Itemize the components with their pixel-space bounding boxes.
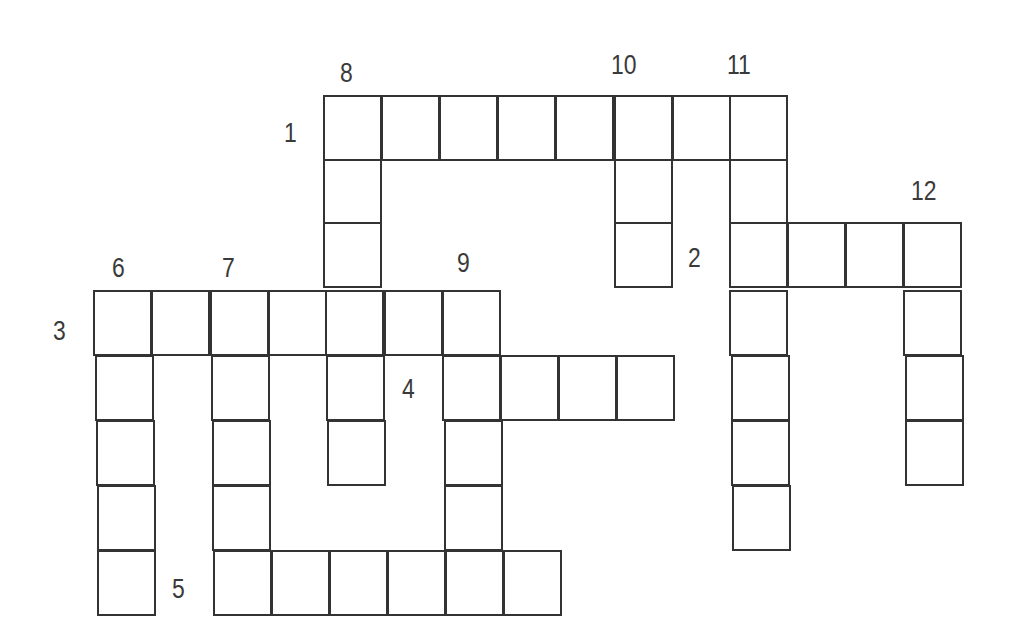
clue-number-label: 8 (340, 60, 353, 87)
crossword-cell[interactable] (210, 290, 269, 356)
crossword-cell[interactable] (729, 159, 788, 225)
clue-number-label: 5 (172, 576, 185, 603)
clue-number-label: 3 (53, 318, 66, 345)
crossword-grid: 123456789101112 (0, 0, 1012, 643)
crossword-cell[interactable] (212, 420, 271, 486)
clue-number-label: 10 (611, 52, 637, 79)
crossword-cell[interactable] (672, 95, 731, 161)
crossword-cell[interactable] (271, 550, 330, 616)
clue-number-label: 1 (284, 120, 297, 147)
crossword-cell[interactable] (616, 355, 675, 421)
crossword-cell[interactable] (326, 355, 385, 421)
crossword-cell[interactable] (903, 290, 962, 356)
crossword-cell[interactable] (384, 290, 443, 356)
crossword-cell[interactable] (439, 95, 498, 161)
crossword-cell[interactable] (903, 222, 962, 288)
crossword-cell[interactable] (442, 290, 501, 356)
crossword-cell[interactable] (97, 550, 156, 616)
crossword-cell[interactable] (503, 550, 562, 616)
crossword-cell[interactable] (327, 420, 386, 486)
crossword-cell[interactable] (845, 222, 904, 288)
crossword-cell[interactable] (729, 222, 788, 288)
crossword-cell[interactable] (211, 355, 270, 421)
crossword-cell[interactable] (729, 95, 788, 161)
crossword-cell[interactable] (444, 485, 503, 551)
clue-number-label: 6 (112, 255, 125, 282)
crossword-cell[interactable] (213, 550, 272, 616)
crossword-cell[interactable] (323, 222, 382, 288)
clue-number-label: 12 (911, 178, 937, 205)
crossword-cell[interactable] (500, 355, 559, 421)
crossword-cell[interactable] (444, 420, 503, 486)
clue-number-label: 7 (222, 255, 235, 282)
crossword-cell[interactable] (497, 95, 556, 161)
crossword-cell[interactable] (731, 355, 790, 421)
crossword-cell[interactable] (212, 485, 271, 551)
crossword-cell[interactable] (387, 550, 446, 616)
crossword-cell[interactable] (555, 95, 614, 161)
crossword-cell[interactable] (732, 485, 791, 551)
crossword-cell[interactable] (614, 159, 673, 225)
clue-number-label: 2 (688, 245, 701, 272)
crossword-cell[interactable] (614, 95, 673, 161)
crossword-cell[interactable] (95, 355, 154, 421)
crossword-cell[interactable] (96, 420, 155, 486)
crossword-cell[interactable] (445, 550, 504, 616)
crossword-cell[interactable] (442, 355, 501, 421)
crossword-cell[interactable] (614, 222, 673, 288)
crossword-cell[interactable] (323, 95, 382, 161)
crossword-cell[interactable] (381, 95, 440, 161)
clue-number-label: 9 (457, 250, 470, 277)
crossword-cell[interactable] (787, 222, 846, 288)
crossword-cell[interactable] (97, 485, 156, 551)
crossword-cell[interactable] (905, 355, 964, 421)
crossword-cell[interactable] (729, 290, 788, 356)
crossword-cell[interactable] (558, 355, 617, 421)
crossword-cell[interactable] (325, 290, 384, 356)
clue-number-label: 4 (402, 376, 415, 403)
crossword-cell[interactable] (268, 290, 327, 356)
crossword-cell[interactable] (731, 420, 790, 486)
crossword-cell[interactable] (93, 290, 152, 356)
crossword-cell[interactable] (323, 159, 382, 225)
crossword-cell[interactable] (905, 420, 964, 486)
crossword-cell[interactable] (329, 550, 388, 616)
crossword-cell[interactable] (151, 290, 210, 356)
clue-number-label: 11 (727, 52, 751, 79)
